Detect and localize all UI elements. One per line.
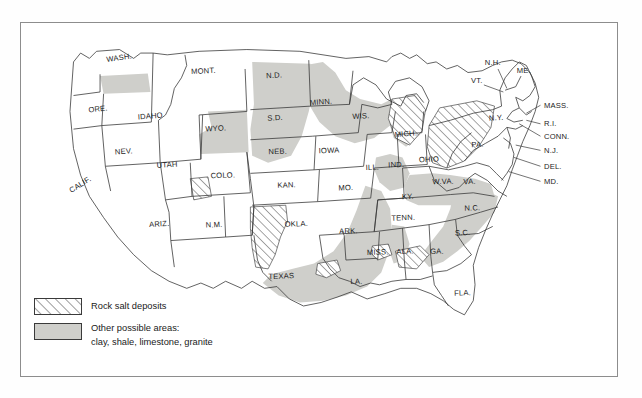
state-label-mont: MONT. bbox=[191, 66, 216, 76]
state-label-miss: MISS. bbox=[367, 247, 389, 257]
state-label-texas: TEXAS bbox=[268, 271, 294, 281]
state-label-ore: ORE. bbox=[88, 103, 108, 114]
state-label-iowa: IOWA bbox=[319, 146, 341, 156]
state-label-wva: W.VA. bbox=[432, 177, 454, 187]
callout-label-ri: R.I. bbox=[544, 119, 557, 128]
legend-label-other-areas: Other possible areas: bbox=[91, 323, 179, 333]
state-label-fla: FLA. bbox=[454, 288, 471, 298]
state-label-ark: ARK. bbox=[339, 226, 358, 236]
legend-hatch-pattern bbox=[35, 299, 81, 314]
legend-label-rock-salt: Rock salt deposits bbox=[91, 301, 166, 311]
state-label-neb: NEB. bbox=[268, 147, 287, 157]
legend-swatch-rock-salt bbox=[34, 298, 82, 315]
callout-label-mass: MASS. bbox=[544, 101, 569, 110]
state-label-ga: GA. bbox=[430, 247, 444, 256]
state-label-ariz: ARIZ. bbox=[149, 219, 170, 229]
state-label-va: VA. bbox=[463, 177, 476, 186]
state-label-okla: OKLA. bbox=[285, 219, 309, 229]
callout-label-conn: CONN. bbox=[544, 132, 569, 141]
callout-label-nj: N.J. bbox=[544, 146, 558, 155]
state-label-nd: N.D. bbox=[266, 70, 282, 80]
state-label-sc: S.C. bbox=[455, 228, 471, 238]
state-label-calif: CALIF. bbox=[68, 174, 93, 194]
state-label-nm: N.M. bbox=[206, 220, 223, 230]
state-label-ind: IND. bbox=[388, 160, 404, 170]
callout-label-del: DEL. bbox=[544, 162, 562, 171]
map-frame: WASH.ORE.CALIF.IDAHOMONT.WYO.NEV.UTAHCOL… bbox=[20, 22, 618, 377]
state-label-mo: MO. bbox=[338, 183, 353, 193]
state-label-utah: UTAH bbox=[156, 160, 177, 170]
state-label-ala: ALA. bbox=[396, 247, 413, 257]
state-label-colo: COLO. bbox=[210, 170, 235, 180]
legend-label-other-areas-detail: clay, shale, limestone, granite bbox=[91, 337, 213, 347]
callout-label-vt: VT. bbox=[471, 76, 483, 85]
state-label-pa: PA. bbox=[471, 140, 484, 150]
state-label-nc: N.C. bbox=[464, 203, 480, 213]
state-label-ky: KY. bbox=[402, 192, 414, 201]
callout-label-nh: N.H. bbox=[485, 58, 501, 67]
state-label-wis: WIS. bbox=[352, 111, 370, 121]
state-label-sd: S.D. bbox=[267, 113, 283, 123]
state-label-la: LA. bbox=[350, 277, 362, 286]
state-label-wash: WASH. bbox=[106, 51, 133, 63]
state-label-wyo: WYO. bbox=[205, 123, 226, 133]
state-label-ny: N.Y. bbox=[489, 113, 504, 123]
state-label-minn: MINN. bbox=[309, 97, 332, 108]
state-label-nev: NEV. bbox=[115, 146, 133, 156]
legend-swatch-other-areas bbox=[34, 323, 82, 340]
state-label-idaho: IDAHO bbox=[138, 111, 164, 122]
state-label-tenn: TENN. bbox=[391, 213, 415, 223]
callout-label-me: ME. bbox=[517, 66, 531, 75]
callout-label-md: MD. bbox=[544, 177, 558, 186]
state-label-ill: ILL. bbox=[366, 163, 380, 172]
state-label-kan: KAN. bbox=[277, 180, 296, 190]
map-figure: WASH.ORE.CALIF.IDAHOMONT.WYO.NEV.UTAHCOL… bbox=[0, 0, 642, 398]
state-label-ohio: OHIO bbox=[419, 155, 439, 165]
